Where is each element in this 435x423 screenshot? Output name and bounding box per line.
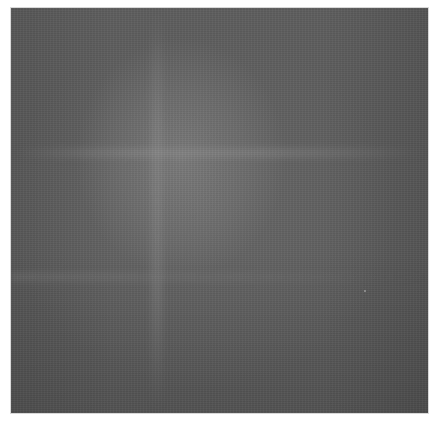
texture-overlay	[11, 8, 428, 413]
gray-panel	[11, 8, 428, 413]
speck	[364, 290, 366, 292]
